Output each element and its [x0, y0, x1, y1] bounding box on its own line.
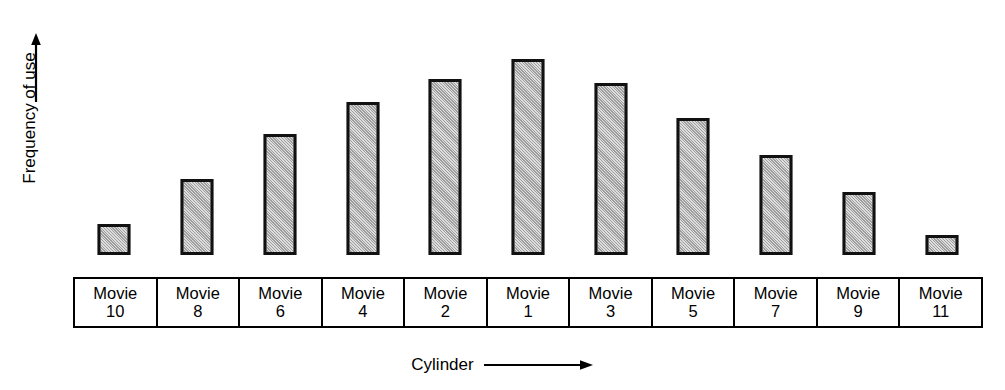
bar-movie-2 [429, 79, 462, 255]
category-cell-movie-3: Movie 3 [570, 279, 653, 326]
category-label-name: Movie [836, 285, 880, 302]
bar-movie-5 [677, 118, 710, 255]
category-label-number: 5 [689, 303, 698, 320]
category-label-name: Movie [589, 285, 633, 302]
bar-slot [156, 30, 239, 255]
bar-chart-figure: Frequency of use [0, 0, 1005, 390]
category-label-number: 10 [106, 303, 124, 320]
category-label-number: 1 [523, 303, 532, 320]
category-label-number: 8 [193, 303, 202, 320]
bar-slot [569, 30, 652, 255]
category-cell-movie-8: Movie 8 [158, 279, 241, 326]
bar-slot [818, 30, 901, 255]
bar-slot [404, 30, 487, 255]
category-label-name: Movie [341, 285, 385, 302]
bar-slot [900, 30, 983, 255]
bar-movie-1 [511, 59, 544, 255]
category-label-number: 6 [276, 303, 285, 320]
category-cell-movie-5: Movie 5 [653, 279, 736, 326]
category-cell-movie-6: Movie 6 [240, 279, 323, 326]
category-label-name: Movie [176, 285, 220, 302]
bar-movie-7 [760, 155, 793, 255]
category-label-number: 9 [854, 303, 863, 320]
bar-slot [73, 30, 156, 255]
category-label-number: 4 [358, 303, 367, 320]
bar-slot [238, 30, 321, 255]
category-cell-movie-7: Movie 7 [735, 279, 818, 326]
category-cell-movie-2: Movie 2 [405, 279, 488, 326]
category-cell-movie-11: Movie 11 [900, 279, 981, 326]
bar-slot [487, 30, 570, 255]
bar-movie-11 [925, 235, 958, 255]
x-axis-title: Cylinder [411, 355, 473, 375]
plot-area [73, 30, 983, 255]
x-axis-group: Cylinder [0, 350, 1005, 380]
bar-movie-9 [842, 192, 875, 255]
category-label-name: Movie [754, 285, 798, 302]
bar-movie-3 [594, 83, 627, 255]
category-cell-movie-10: Movie 10 [75, 279, 158, 326]
arrow-right-icon [484, 358, 594, 372]
category-label-name: Movie [423, 285, 467, 302]
y-axis-group: Frequency of use [0, 0, 70, 270]
category-cell-movie-1: Movie 1 [488, 279, 571, 326]
bar-slot [652, 30, 735, 255]
category-label-name: Movie [506, 285, 550, 302]
bar-movie-6 [263, 134, 296, 255]
bar-slot [735, 30, 818, 255]
category-label-number: 2 [441, 303, 450, 320]
category-label-name: Movie [258, 285, 302, 302]
category-cell-movie-4: Movie 4 [323, 279, 406, 326]
category-label-number: 7 [771, 303, 780, 320]
category-label-number: 3 [606, 303, 615, 320]
y-axis-title: Frequency of use [15, 38, 45, 198]
category-label-number: 11 [932, 303, 949, 320]
bar-slot [321, 30, 404, 255]
category-label-table: Movie 10 Movie 8 Movie 6 Movie 4 Movie 2… [73, 277, 983, 328]
bar-movie-4 [346, 102, 379, 255]
category-cell-movie-9: Movie 9 [818, 279, 901, 326]
category-label-name: Movie [671, 285, 715, 302]
category-label-name: Movie [93, 285, 137, 302]
category-label-name: Movie [919, 285, 963, 302]
bar-movie-10 [98, 224, 131, 255]
bar-movie-8 [181, 179, 214, 255]
